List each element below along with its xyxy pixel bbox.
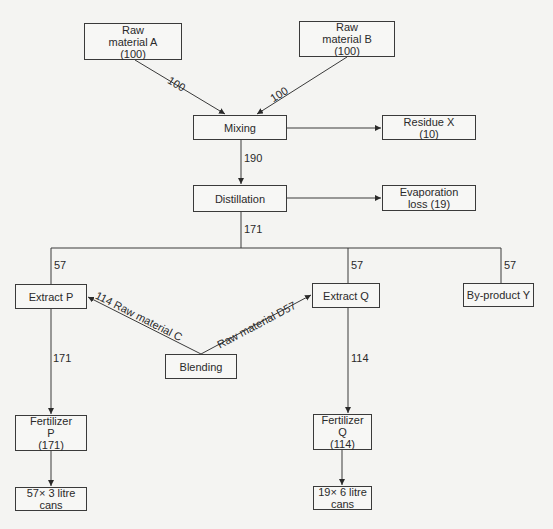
node-distillation: Distillation <box>193 185 287 212</box>
node-label: loss (19) <box>408 198 450 210</box>
node-evaporation-loss: Evaporation loss (19) <box>382 185 476 211</box>
node-label: cans <box>331 498 354 510</box>
node-cans-p: 57× 3 litre cans <box>15 487 87 511</box>
node-label: Extract Q <box>323 290 369 302</box>
node-raw-material-a: Raw material A (100) <box>84 23 182 60</box>
node-fertilizer-p: Fertilizer P (171) <box>15 415 87 451</box>
node-label: 19× 6 litre <box>318 486 367 498</box>
node-mixing: Mixing <box>193 115 287 140</box>
node-label: Raw <box>336 21 358 33</box>
node-label: Extract P <box>29 291 74 303</box>
node-byproduct-y: By-product Y <box>463 283 534 307</box>
edge-label-extract-q-to-fertilizer: 114 <box>351 352 369 364</box>
arrow-b-to-mixing <box>257 57 347 114</box>
node-blending: Blending <box>165 354 237 379</box>
node-label: material B <box>322 33 372 45</box>
node-label: Blending <box>180 361 223 373</box>
edge-label-mixing-to-distillation: 190 <box>244 152 262 164</box>
node-label: By-product Y <box>467 289 530 301</box>
edge-label-extract-p-to-fertilizer: 171 <box>53 352 71 364</box>
node-residue-x: Residue X (10) <box>382 115 476 140</box>
node-label: Residue X <box>404 116 455 128</box>
node-label: material A <box>109 36 158 48</box>
node-label: P <box>47 427 54 439</box>
edge-label-to-extract-q: 57 <box>351 259 363 271</box>
edge-label-distillation-out: 171 <box>244 223 262 235</box>
node-label: Evaporation <box>400 186 459 198</box>
node-label: Distillation <box>215 193 265 205</box>
edge-label-to-extract-p: 57 <box>54 259 66 271</box>
node-raw-material-b: Raw material B (100) <box>299 21 395 57</box>
node-label: Fertilizer <box>30 415 72 427</box>
node-fertilizer-q: Fertilizer Q (114) <box>313 414 372 450</box>
node-extract-q: Extract Q <box>312 283 380 308</box>
node-label: (10) <box>419 128 439 140</box>
node-label: (114) <box>330 438 355 450</box>
node-label: cans <box>39 499 62 511</box>
node-label: Q <box>338 426 347 438</box>
node-label: Fertilizer <box>321 414 363 426</box>
node-label: (100) <box>120 48 146 60</box>
node-label: 57× 3 litre <box>27 487 76 499</box>
node-label: (100) <box>334 45 360 57</box>
node-extract-p: Extract P <box>15 284 87 309</box>
node-label: (171) <box>38 439 64 451</box>
node-label: Mixing <box>224 122 256 134</box>
node-label: Raw <box>122 24 144 36</box>
edge-label-to-byproduct-y: 57 <box>504 259 516 271</box>
node-cans-q: 19× 6 litre cans <box>313 486 372 510</box>
process-flow-diagram: Raw material A (100) Raw material B (100… <box>0 0 553 529</box>
